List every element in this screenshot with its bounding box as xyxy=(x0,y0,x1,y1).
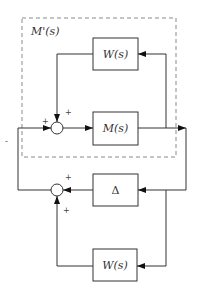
wire-m-output-loop xyxy=(138,128,186,190)
arrow-into-m xyxy=(85,125,93,131)
delta-label: Δ xyxy=(112,184,120,197)
wire-sum2-to-sum1 xyxy=(18,128,51,190)
mprime-label: M'(s) xyxy=(30,25,60,38)
arrow-into-sum2-right xyxy=(63,187,71,193)
stray-dash-mark: - xyxy=(5,137,8,146)
w-top-block: W(s) xyxy=(93,38,138,70)
w-bottom-label: W(s) xyxy=(102,259,128,272)
sum2-top-sign: + xyxy=(65,173,72,182)
arrow-into-w-bottom xyxy=(137,263,145,269)
arrow-into-w-top xyxy=(138,51,146,57)
wire-feedback-to-w-top xyxy=(138,54,166,128)
m-block: M(s) xyxy=(93,112,138,145)
summing-junction-1 xyxy=(51,122,63,134)
arrow-into-sum2-bottom xyxy=(54,196,60,204)
sum1-left-sign: + xyxy=(42,117,49,126)
arrow-into-sum1-top xyxy=(54,114,60,122)
wire-to-w-bottom xyxy=(137,190,166,266)
w-bottom-block: W(s) xyxy=(93,249,137,281)
arrow-into-delta xyxy=(138,187,146,193)
sum1-top-sign: + xyxy=(65,108,72,117)
w-top-label: W(s) xyxy=(103,48,129,61)
arrow-m-output xyxy=(178,125,186,131)
block-diagram: M'(s) W(s) M(s) Δ W(s) + + + + - xyxy=(0,0,200,295)
sum2-bottom-sign: + xyxy=(63,206,70,215)
delta-block: Δ xyxy=(93,174,138,206)
summing-junction-2 xyxy=(51,184,63,196)
m-label: M(s) xyxy=(102,122,129,135)
wire-w-top-to-sum1 xyxy=(57,54,93,122)
